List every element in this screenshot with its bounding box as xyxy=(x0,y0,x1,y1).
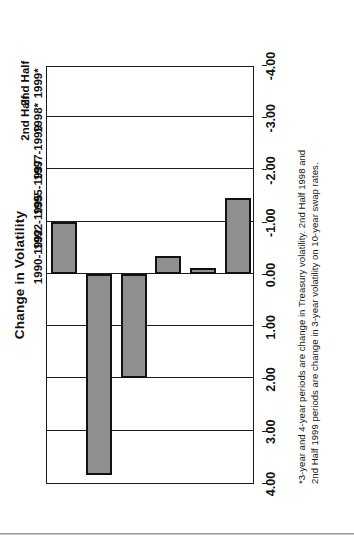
value-axis-label: 2.00 xyxy=(264,367,278,391)
bar xyxy=(225,198,251,274)
plot-area xyxy=(46,66,254,484)
value-axis: 4.003.002.001.000.00-1.00-2.00-3.00-4.00 xyxy=(262,66,284,484)
value-axis-label: 3.00 xyxy=(264,420,278,444)
bar xyxy=(121,274,147,379)
value-axis-label: -3.00 xyxy=(264,104,278,133)
category-axis: 1990-19921992-19951995-19971997-19992nd … xyxy=(10,66,44,484)
bar-band xyxy=(116,67,151,483)
value-axis-label: -1.00 xyxy=(264,209,278,238)
bar xyxy=(51,222,77,274)
category-label: 2nd Half 1999* xyxy=(19,61,44,106)
bar xyxy=(86,274,112,475)
footnote: *3-year and 4-year periods are change in… xyxy=(296,54,322,484)
footnote-line-1: *3-year and 4-year periods are change in… xyxy=(296,54,309,484)
bar-band xyxy=(47,67,82,483)
value-axis-label: -4.00 xyxy=(264,52,278,81)
bar xyxy=(190,268,216,274)
bar-band xyxy=(186,67,221,483)
value-axis-label: -2.00 xyxy=(264,156,278,185)
page-divider-rule xyxy=(0,533,354,535)
value-axis-label: 1.00 xyxy=(264,315,278,339)
rotated-chart-canvas: Change in Volatility 1990-19921992-19951… xyxy=(12,40,342,510)
bar-band xyxy=(151,67,186,483)
figure-page: Change in Volatility 1990-19921992-19951… xyxy=(0,0,354,549)
value-axis-label: 4.00 xyxy=(264,472,278,496)
bar xyxy=(155,256,181,274)
value-axis-label: 0.00 xyxy=(264,263,278,287)
bar-band xyxy=(82,67,117,483)
bar-band xyxy=(220,67,255,483)
bar-series xyxy=(47,67,253,483)
footnote-line-2: 2nd Half 1999 periods are change in 3-ye… xyxy=(309,54,322,484)
